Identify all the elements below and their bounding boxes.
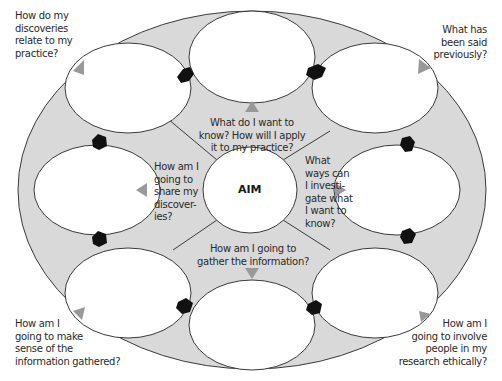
corner-bottom-left-line: sense of the	[15, 343, 120, 356]
corner-bottom-right-line: How am I	[399, 318, 487, 331]
stage-circle-top-right	[312, 43, 438, 133]
question-left-line: ies?	[154, 211, 199, 224]
question-left-line: going to	[154, 174, 199, 187]
corner-top-right-line: been said	[434, 37, 487, 50]
corner-bottom-left-line: information gathered?	[15, 356, 120, 369]
question-top-line: What do I want to	[195, 117, 309, 130]
stage-circle-bottom	[189, 280, 315, 370]
question-right-line: gate what	[305, 193, 353, 206]
question-right-line: I want to	[305, 205, 353, 218]
question-right-line: I investi-	[305, 180, 353, 193]
question-right-line: What	[305, 155, 353, 168]
question-bottom-line: How am I going to	[195, 243, 311, 256]
stage-circle-top-left	[65, 43, 191, 133]
question-left-line: discover-	[154, 199, 199, 212]
question-left-line: share my	[154, 186, 199, 199]
question-right-line: ways can	[305, 168, 353, 181]
corner-question-top-right: What has been said previously?	[434, 24, 487, 62]
corner-question-bottom-left: How am I going to make sense of the info…	[15, 318, 120, 368]
question-right-line: know?	[305, 218, 353, 231]
question-left-line: How am I	[154, 161, 199, 174]
question-right: What ways can I investi- gate what I wan…	[305, 155, 353, 230]
corner-top-right-line: previously?	[434, 49, 487, 62]
corner-top-left-line: How do my	[15, 10, 72, 23]
corner-top-right-line: What has	[434, 24, 487, 37]
aim-label: AIM	[238, 183, 262, 196]
corner-top-left-line: practice?	[15, 48, 72, 61]
corner-top-left-line: relate to my	[15, 35, 72, 48]
corner-bottom-right-line: going to involve	[399, 331, 487, 344]
question-top-line: it to my practice?	[195, 142, 309, 155]
stage-circle-right	[334, 145, 460, 235]
question-top: What do I want to know? How will I apply…	[195, 117, 309, 155]
corner-bottom-right-line: people in my	[399, 343, 487, 356]
question-bottom: How am I going to gather the information…	[195, 243, 311, 268]
corner-bottom-left-line: going to make	[15, 331, 120, 344]
corner-question-top-left: How do my discoveries relate to my pract…	[15, 10, 72, 60]
question-left: How am I going to share my discover- ies…	[154, 161, 199, 224]
stage-circle-top	[189, 11, 315, 103]
corner-top-left-line: discoveries	[15, 23, 72, 36]
question-top-line: know? How will I apply	[195, 130, 309, 143]
corner-bottom-right-line: research ethically?	[399, 356, 487, 369]
question-bottom-line: gather the information?	[195, 256, 311, 269]
corner-bottom-left-line: How am I	[15, 318, 120, 331]
corner-question-bottom-right: How am I going to involve people in my r…	[399, 318, 487, 368]
